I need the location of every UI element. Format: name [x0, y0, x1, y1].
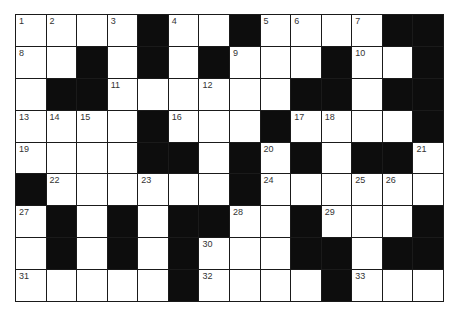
crossword-cell[interactable]: 33 — [352, 270, 382, 301]
crossword-cell[interactable]: 28 — [230, 206, 260, 237]
crossword-cell[interactable] — [352, 238, 382, 269]
black-cell — [383, 15, 413, 46]
crossword-cell[interactable] — [138, 238, 168, 269]
crossword-cell[interactable] — [16, 79, 46, 110]
crossword-cell[interactable]: 10 — [352, 47, 382, 78]
crossword-cell[interactable] — [261, 206, 291, 237]
crossword-cell[interactable] — [261, 79, 291, 110]
crossword-cell[interactable]: 4 — [169, 15, 199, 46]
crossword-cell[interactable]: 2 — [47, 15, 77, 46]
crossword-cell[interactable] — [230, 79, 260, 110]
crossword-cell[interactable]: 14 — [47, 111, 77, 142]
crossword-cell[interactable] — [77, 238, 107, 269]
crossword-cell[interactable] — [291, 270, 321, 301]
crossword-cell[interactable] — [169, 47, 199, 78]
crossword-cell[interactable] — [261, 47, 291, 78]
crossword-cell[interactable] — [199, 111, 229, 142]
crossword-cell[interactable] — [383, 270, 413, 301]
crossword-cell[interactable] — [261, 270, 291, 301]
black-cell — [47, 79, 77, 110]
crossword-cell[interactable] — [230, 238, 260, 269]
black-cell — [383, 143, 413, 174]
crossword-cell[interactable]: 17 — [291, 111, 321, 142]
crossword-cell[interactable]: 32 — [199, 270, 229, 301]
crossword-cell[interactable] — [108, 111, 138, 142]
crossword-cell[interactable] — [16, 238, 46, 269]
crossword-cell[interactable] — [77, 270, 107, 301]
crossword-cell[interactable] — [413, 270, 443, 301]
clue-number: 24 — [264, 176, 274, 185]
crossword-cell[interactable] — [47, 47, 77, 78]
clue-number: 31 — [19, 272, 29, 281]
crossword-cell[interactable] — [322, 143, 352, 174]
crossword-cell[interactable] — [108, 174, 138, 205]
crossword-cell[interactable]: 7 — [352, 15, 382, 46]
crossword-cell[interactable]: 1 — [16, 15, 46, 46]
crossword-cell[interactable] — [108, 47, 138, 78]
crossword-cell[interactable] — [108, 143, 138, 174]
clue-number: 29 — [325, 208, 335, 217]
crossword-cell[interactable]: 25 — [352, 174, 382, 205]
black-cell — [291, 143, 321, 174]
crossword-cell[interactable]: 30 — [199, 238, 229, 269]
crossword-cell[interactable] — [77, 174, 107, 205]
crossword-cell[interactable] — [47, 143, 77, 174]
crossword-cell[interactable] — [77, 15, 107, 46]
crossword-cell[interactable] — [138, 79, 168, 110]
crossword-cell[interactable] — [77, 206, 107, 237]
crossword-cell[interactable] — [230, 111, 260, 142]
crossword-cell[interactable] — [199, 15, 229, 46]
crossword-cell[interactable] — [138, 206, 168, 237]
crossword-cell[interactable] — [230, 270, 260, 301]
crossword-cell[interactable]: 21 — [413, 143, 443, 174]
crossword-cell[interactable]: 20 — [261, 143, 291, 174]
crossword-cell[interactable]: 3 — [108, 15, 138, 46]
crossword-cell[interactable] — [77, 143, 107, 174]
crossword-cell[interactable]: 9 — [230, 47, 260, 78]
crossword-cell[interactable]: 24 — [261, 174, 291, 205]
crossword-cell[interactable] — [352, 206, 382, 237]
crossword-cell[interactable]: 22 — [47, 174, 77, 205]
crossword-cell[interactable] — [169, 174, 199, 205]
crossword-cell[interactable] — [261, 238, 291, 269]
black-cell — [138, 15, 168, 46]
clue-number: 7 — [355, 17, 360, 26]
crossword-cell[interactable]: 8 — [16, 47, 46, 78]
crossword-cell[interactable]: 15 — [77, 111, 107, 142]
crossword-cell[interactable] — [383, 47, 413, 78]
crossword-cell[interactable] — [47, 270, 77, 301]
crossword-cell[interactable]: 12 — [199, 79, 229, 110]
crossword-cell[interactable]: 18 — [322, 111, 352, 142]
crossword-cell[interactable] — [169, 79, 199, 110]
clue-number: 21 — [416, 145, 426, 154]
crossword-cell[interactable]: 29 — [322, 206, 352, 237]
crossword-cell[interactable]: 31 — [16, 270, 46, 301]
crossword-cell[interactable] — [108, 270, 138, 301]
crossword-cell[interactable]: 11 — [108, 79, 138, 110]
crossword-cell[interactable] — [383, 206, 413, 237]
crossword-cell[interactable] — [322, 174, 352, 205]
crossword-cell[interactable]: 5 — [261, 15, 291, 46]
black-cell — [413, 206, 443, 237]
clue-number: 11 — [111, 81, 120, 90]
crossword-cell[interactable] — [291, 174, 321, 205]
crossword-cell[interactable] — [413, 174, 443, 205]
clue-number: 1 — [19, 17, 24, 26]
crossword-cell[interactable] — [199, 143, 229, 174]
crossword-cell[interactable]: 23 — [138, 174, 168, 205]
crossword-cell[interactable] — [322, 15, 352, 46]
crossword-cell[interactable] — [352, 111, 382, 142]
crossword-cell[interactable]: 6 — [291, 15, 321, 46]
crossword-cell[interactable] — [352, 79, 382, 110]
crossword-cell[interactable] — [383, 111, 413, 142]
crossword-cell[interactable]: 13 — [16, 111, 46, 142]
black-cell — [108, 206, 138, 237]
crossword-cell[interactable]: 16 — [169, 111, 199, 142]
clue-number: 27 — [19, 208, 29, 217]
crossword-cell[interactable]: 27 — [16, 206, 46, 237]
crossword-cell[interactable] — [138, 270, 168, 301]
crossword-cell[interactable] — [199, 174, 229, 205]
crossword-cell[interactable]: 19 — [16, 143, 46, 174]
crossword-cell[interactable] — [291, 47, 321, 78]
crossword-cell[interactable]: 26 — [383, 174, 413, 205]
